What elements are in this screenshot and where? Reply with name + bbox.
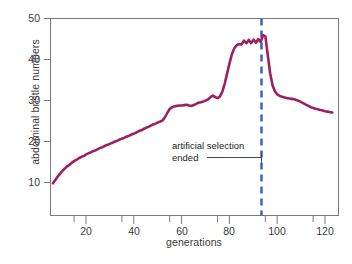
chart-figure: abdominal bristle numbers generations 50… [0,0,352,264]
x-tick-label-100: 100 [262,225,292,237]
x-axis-ticks [74,216,325,225]
plot-frame [51,19,339,216]
y-tick-label-20: 20 [14,135,40,147]
y-tick-label-30: 30 [14,94,40,106]
annotation-leader-line [207,153,262,163]
x-tick-label-60: 60 [167,225,197,237]
y-tick-label-10: 10 [14,176,40,188]
x-axis-title: generations [50,236,338,248]
x-tick-label-20: 20 [71,225,101,237]
y-tick-label-50: 50 [14,12,40,24]
x-tick-label-120: 120 [310,225,340,237]
y-tick-label-40: 40 [14,53,40,65]
x-tick-label-40: 40 [119,225,149,237]
annotation-line-1: artificial selection [172,140,244,153]
annotation-line-2: ended [172,152,198,165]
x-tick-label-80: 80 [214,225,244,237]
y-axis-ticks [44,19,51,183]
